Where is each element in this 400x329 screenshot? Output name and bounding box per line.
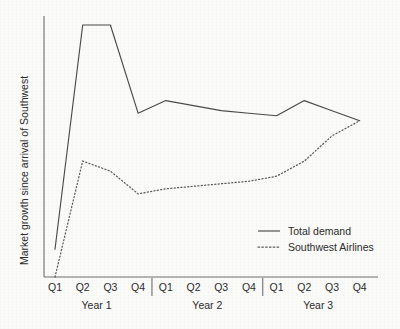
chart-legend: Total demandSouthwest Airlines (258, 225, 374, 253)
legend-label: Total demand (288, 225, 351, 237)
x-tick-label: Q4 (242, 281, 256, 293)
chart-page: Market growth since arrival of Southwest… (0, 0, 400, 329)
x-tick-label: Q4 (131, 281, 145, 293)
x-group-label: Year 2 (192, 299, 222, 311)
x-tick-label: Q3 (325, 281, 339, 293)
x-tick-label: Q3 (214, 281, 228, 293)
series-line-southwest-airlines (55, 121, 360, 277)
series-layer (55, 25, 360, 277)
x-axis-layer: Q1Q2Q3Q4Q1Q2Q3Q4Q1Q2Q3Q4Year 1Year 2Year… (48, 278, 367, 311)
x-tick-label: Q1 (159, 281, 173, 293)
market-growth-line-chart: Market growth since arrival of Southwest… (0, 0, 400, 329)
x-tick-label: Q2 (297, 281, 311, 293)
x-tick-label: Q2 (76, 281, 90, 293)
x-tick-label: Q1 (48, 281, 62, 293)
x-group-label: Year 3 (303, 299, 333, 311)
x-tick-label: Q3 (103, 281, 117, 293)
x-tick-label: Q2 (186, 281, 200, 293)
x-tick-label: Q1 (270, 281, 284, 293)
y-axis-title: Market growth since arrival of Southwest (18, 76, 30, 265)
x-group-label: Year 1 (82, 299, 112, 311)
series-line-total-demand (55, 25, 360, 249)
legend-label: Southwest Airlines (288, 241, 374, 253)
x-tick-label: Q4 (353, 281, 367, 293)
